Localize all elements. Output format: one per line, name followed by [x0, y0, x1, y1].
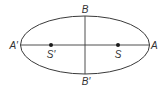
label-left-vertex: A′ [8, 40, 19, 51]
label-left-focus: S′ [47, 49, 57, 60]
ellipse-diagram: B B′ A′ A S′ S [0, 0, 162, 92]
right-focus-dot [116, 43, 120, 47]
label-right-vertex: A [150, 40, 158, 51]
label-bottom-vertex: B′ [82, 76, 92, 87]
label-top-vertex: B [82, 4, 89, 15]
label-right-focus: S [115, 49, 122, 60]
left-focus-dot [49, 43, 53, 47]
